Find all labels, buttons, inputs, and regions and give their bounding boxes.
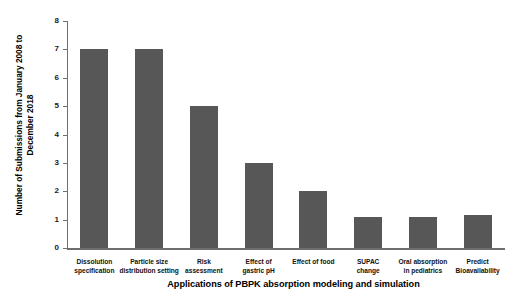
y-axis-title-line-2: December 2018 — [25, 35, 36, 216]
plot-area: 012345678 DissolutionspecificationPartic… — [67, 21, 505, 248]
y-axis-tick — [63, 49, 67, 50]
x-axis-category-label-line: Dissolution — [63, 257, 126, 266]
y-axis-tick-label: 6 — [44, 74, 59, 82]
x-axis-category-label-line: change — [337, 266, 400, 275]
y-axis-tick — [63, 135, 67, 136]
x-axis-category-label: PredictBioavailability — [446, 257, 509, 275]
x-axis-category-label: Riskassessment — [173, 257, 236, 275]
y-axis-tick — [63, 21, 67, 22]
bar — [354, 217, 382, 248]
y-axis-tick-label: 0 — [44, 244, 59, 252]
x-axis-category-label: Oral absorptionin pediatrics — [392, 257, 455, 275]
y-axis-tick — [63, 191, 67, 192]
x-axis-category-label: Effect ofgastric pH — [227, 257, 290, 275]
y-axis-tick — [63, 106, 67, 107]
x-axis-category-label-line: specification — [63, 266, 126, 275]
x-axis-category-label-line: Risk — [173, 257, 236, 266]
bar — [464, 215, 492, 248]
y-axis-tick-label: 2 — [44, 187, 59, 195]
y-axis-tick — [63, 220, 67, 221]
x-axis-category-label-line: Particle size — [118, 257, 181, 266]
x-axis-category-label-line: Predict — [446, 257, 509, 266]
x-axis-category-label: Effect of food — [282, 257, 345, 266]
x-axis-category-label-line: in pediatrics — [392, 266, 455, 275]
y-axis-tick-label: 8 — [44, 17, 59, 25]
x-axis-category-label-line: Oral absorption — [392, 257, 455, 266]
y-axis-tick — [63, 78, 67, 79]
y-axis-title: Number of Submissions from January 2008 … — [8, 0, 42, 250]
bar — [135, 49, 163, 248]
y-axis-tick-label: 5 — [44, 102, 59, 110]
y-axis-tick-label: 3 — [44, 159, 59, 167]
x-axis-category-label-line: Effect of food — [282, 257, 345, 266]
bar — [409, 217, 437, 248]
y-axis-title-line-1: Number of Submissions from January 2008 … — [14, 35, 25, 216]
y-axis-line — [67, 21, 68, 248]
bar — [245, 163, 273, 248]
x-axis-category-label-line: gastric pH — [227, 266, 290, 275]
y-axis-tick-label: 1 — [44, 216, 59, 224]
x-axis-category-label-line: SUPAC — [337, 257, 400, 266]
y-axis-tick-label: 7 — [44, 45, 59, 53]
bar — [299, 191, 327, 248]
bar — [80, 49, 108, 248]
x-axis-category-label-line: assessment — [173, 266, 236, 275]
y-axis-tick-label: 4 — [44, 131, 59, 139]
bar — [190, 106, 218, 248]
y-axis-tick — [63, 248, 67, 249]
x-axis-category-label-line: Effect of — [227, 257, 290, 266]
x-axis-category-label-line: distribution setting — [118, 266, 181, 275]
x-axis-title: Applications of PBPK absorption modeling… — [0, 279, 527, 289]
x-axis-category-label: Particle sizedistribution setting — [118, 257, 181, 275]
x-axis-category-label: SUPACchange — [337, 257, 400, 275]
x-axis-category-label: Dissolutionspecification — [63, 257, 126, 275]
x-axis-category-label-line: Bioavailability — [446, 266, 509, 275]
y-axis-tick — [63, 163, 67, 164]
x-axis-line — [67, 248, 505, 250]
bar-chart-figure: Number of Submissions from January 2008 … — [0, 0, 527, 296]
